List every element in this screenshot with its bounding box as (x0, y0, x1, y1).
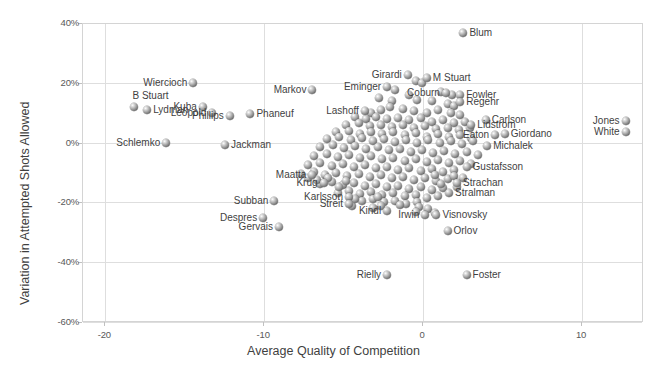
point-label-michalek: Michalek (493, 141, 532, 151)
point-label-girardi: Girardi (372, 70, 402, 80)
data-point-stralman[interactable] (445, 189, 453, 197)
data-point[interactable] (412, 155, 420, 163)
data-point[interactable] (463, 148, 471, 156)
x-tick-mark (104, 322, 105, 326)
x-tick-label: 10 (576, 329, 586, 340)
data-point-kindl[interactable] (383, 207, 391, 215)
y-tick-label: 20% (61, 77, 79, 88)
point-label-foster: Foster (473, 270, 501, 280)
point-label-markov: Markov (274, 85, 307, 95)
data-point[interactable] (418, 146, 426, 154)
data-point-lidstrom[interactable] (467, 121, 475, 129)
y-tick-label: 40% (61, 17, 79, 28)
data-point[interactable] (342, 177, 350, 185)
data-point[interactable] (372, 113, 380, 121)
data-point[interactable] (439, 116, 447, 124)
data-point-jones[interactable] (622, 117, 630, 125)
point-label-m-stuart: M Stuart (433, 73, 471, 83)
x-axis-title: Average Quality of Competition (0, 344, 667, 358)
point-label-rielly: Rielly (357, 270, 381, 280)
data-point[interactable] (412, 129, 420, 137)
data-point[interactable] (436, 139, 444, 147)
y-tick-label: -60% (58, 316, 79, 327)
data-point[interactable] (447, 137, 455, 145)
y-tick-label: 0% (66, 137, 79, 148)
x-tick-mark (581, 322, 582, 326)
data-point[interactable] (350, 179, 358, 187)
data-point[interactable] (374, 143, 382, 151)
data-point[interactable] (374, 193, 382, 201)
point-label-streit: Streit (320, 199, 343, 209)
point-label-phillips: Phillips (192, 111, 224, 121)
x-gridline (264, 24, 265, 321)
point-label-phaneuf: Phaneuf (256, 109, 293, 119)
point-label-b-stuart: B Stuart (132, 91, 168, 101)
x-tick-label: -20 (98, 329, 111, 340)
data-point[interactable] (310, 152, 318, 160)
point-label-krug: Krug (296, 178, 317, 188)
point-label-irwin: Irwin (398, 210, 419, 220)
point-label-gervais: Gervais (239, 222, 273, 232)
data-point[interactable] (399, 173, 407, 181)
data-point[interactable] (474, 151, 482, 159)
data-point-streit[interactable] (345, 200, 353, 208)
data-point-phillips[interactable] (226, 112, 234, 120)
data-point[interactable] (417, 114, 425, 122)
x-tick-mark (422, 322, 423, 326)
point-label-blum: Blum (469, 28, 492, 38)
data-point-strachan[interactable] (453, 179, 461, 187)
data-point[interactable] (444, 124, 452, 132)
point-label-lashoff: Lashoff (326, 106, 359, 116)
data-point[interactable] (339, 160, 347, 168)
point-label-gustafsson: Gustafsson (473, 162, 524, 172)
data-point-giordano[interactable] (501, 130, 509, 138)
point-label-schlemko: Schlemko (116, 138, 160, 148)
data-point-foster[interactable] (463, 271, 471, 279)
y-gridline (83, 322, 642, 323)
data-point[interactable] (458, 140, 466, 148)
data-point-orlov[interactable] (444, 227, 452, 235)
data-point[interactable] (431, 171, 439, 179)
y-axis-title: Variation in Attempted Shots Allowed (18, 102, 32, 305)
data-point[interactable] (447, 109, 455, 117)
data-point-wiercioch[interactable] (189, 79, 197, 87)
data-point[interactable] (380, 135, 388, 143)
point-label-coburn: Coburn (407, 88, 440, 98)
data-point-gustafsson[interactable] (463, 163, 471, 171)
data-point[interactable] (383, 163, 391, 171)
data-point[interactable] (304, 161, 312, 169)
data-point[interactable] (396, 145, 404, 153)
data-point[interactable] (434, 192, 442, 200)
y-gridline (83, 262, 642, 263)
x-gridline (582, 24, 583, 321)
data-point[interactable] (434, 156, 442, 164)
data-point[interactable] (402, 136, 410, 144)
point-label-kindl: Kindl (359, 206, 381, 216)
point-label-subban: Subban (234, 196, 268, 206)
data-point[interactable] (410, 176, 418, 184)
data-point-jackman[interactable] (221, 141, 229, 149)
x-tick-label: -10 (257, 329, 270, 340)
point-label-white: White (594, 127, 620, 137)
point-label-wiercioch: Wiercioch (143, 78, 187, 88)
y-tick-label: -20% (58, 196, 79, 207)
data-point[interactable] (428, 97, 436, 105)
point-label-jones: Jones (593, 116, 620, 126)
data-point-krug[interactable] (320, 179, 328, 187)
data-point[interactable] (417, 183, 425, 191)
data-point[interactable] (423, 194, 431, 202)
x-tick-label: 0 (420, 329, 425, 340)
data-point-michalek[interactable] (483, 142, 491, 150)
page-bottom-edge (0, 370, 667, 377)
data-point[interactable] (377, 121, 385, 129)
data-point[interactable] (394, 182, 402, 190)
data-point[interactable] (355, 170, 363, 178)
data-point[interactable] (323, 150, 331, 158)
data-point[interactable] (345, 127, 353, 135)
data-point[interactable] (355, 119, 363, 127)
x-tick-mark (263, 322, 264, 326)
x-gridline (105, 24, 106, 321)
data-point-white[interactable] (622, 128, 630, 136)
point-label-visnovsky: Visnovsky (442, 210, 487, 220)
point-label-eminger: Eminger (344, 82, 381, 92)
